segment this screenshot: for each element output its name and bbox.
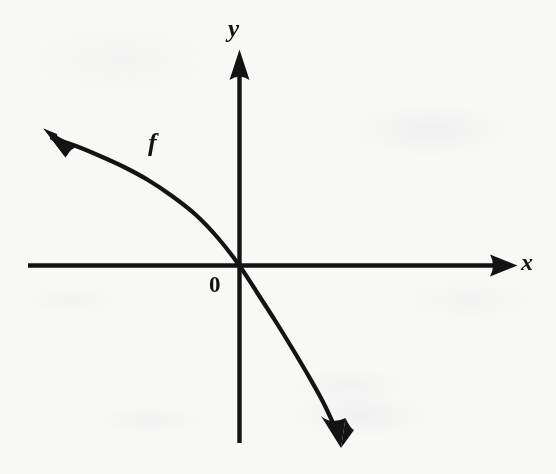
y-axis-arrowhead-icon: [230, 50, 250, 81]
curve-label-f: f: [148, 130, 157, 156]
y-axis-label: y: [228, 16, 239, 41]
x-axis-arrowhead-icon: [490, 255, 518, 277]
curve-f-path: [52, 138, 340, 440]
origin-label: 0: [209, 273, 221, 296]
x-axis: [28, 255, 518, 277]
math-figure: y x 0 f: [0, 0, 556, 474]
function-curve-f: [44, 129, 355, 449]
plot-canvas: [0, 0, 556, 474]
y-axis: [230, 50, 250, 444]
x-axis-label: x: [521, 250, 533, 274]
